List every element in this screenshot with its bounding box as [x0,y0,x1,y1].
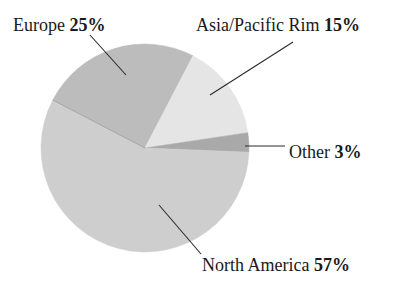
label-north-america: North America 57% [202,255,350,275]
label-europe: Europe 25% [13,15,105,35]
label-other: Other 3% [289,142,361,162]
label-asia-pacific-rim: Asia/Pacific Rim 15% [196,15,360,35]
pie-slices [41,44,249,252]
pie-chart: Europe 25% Asia/Pacific Rim 15% Other 3%… [0,0,406,290]
leader-line [210,42,293,95]
pie-chart-svg: Europe 25% Asia/Pacific Rim 15% Other 3%… [0,0,406,290]
